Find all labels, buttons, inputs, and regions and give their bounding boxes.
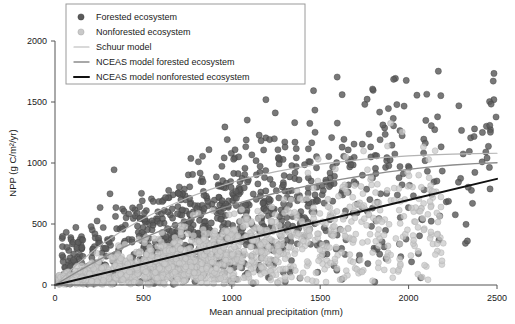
data-point <box>231 156 237 162</box>
data-point <box>487 122 493 128</box>
data-point <box>309 278 315 284</box>
data-point <box>256 132 262 138</box>
data-point <box>310 88 316 94</box>
data-point <box>156 236 162 242</box>
data-point <box>218 275 224 281</box>
data-point <box>223 257 229 263</box>
data-point <box>376 200 382 206</box>
data-point <box>138 190 144 196</box>
data-point <box>408 253 414 259</box>
data-point <box>417 208 423 214</box>
data-point <box>315 198 321 204</box>
data-point <box>418 184 424 190</box>
data-point <box>386 221 392 227</box>
data-point <box>367 231 373 237</box>
data-point <box>325 196 331 202</box>
data-point <box>361 202 367 208</box>
data-point <box>172 269 178 275</box>
y-axis-ticks: 0500100015002000 <box>27 36 55 290</box>
data-point <box>224 136 230 142</box>
data-point <box>471 133 477 139</box>
data-point <box>231 275 237 281</box>
data-point <box>411 237 417 243</box>
data-point <box>286 244 292 250</box>
data-point <box>206 147 212 153</box>
data-point <box>267 176 273 182</box>
data-point <box>391 185 397 191</box>
data-point <box>345 226 351 232</box>
data-point <box>158 244 164 250</box>
data-point <box>212 228 218 234</box>
data-point <box>201 231 207 237</box>
data-point <box>162 194 168 200</box>
data-point <box>222 124 228 130</box>
data-point <box>485 143 491 149</box>
x-axis-title: Mean annual precipitation (mm) <box>209 306 343 317</box>
data-point <box>276 248 282 254</box>
data-point <box>145 281 151 287</box>
data-point <box>351 237 357 243</box>
data-point <box>370 249 376 255</box>
data-point <box>257 242 263 248</box>
data-point <box>292 251 298 257</box>
data-point <box>120 277 126 283</box>
data-point <box>426 175 432 181</box>
legend: Forested ecosystemNonforested ecosystemS… <box>66 4 305 84</box>
data-point <box>434 231 440 237</box>
data-point <box>269 204 275 210</box>
data-point <box>126 211 132 217</box>
y-tick-label: 2000 <box>27 36 47 46</box>
data-point <box>129 205 135 211</box>
data-point <box>174 211 180 217</box>
scatter-clouds <box>56 68 500 287</box>
data-point <box>428 204 434 210</box>
data-point <box>80 253 86 259</box>
data-point <box>364 167 370 173</box>
data-point <box>296 177 302 183</box>
data-point <box>328 260 334 266</box>
data-point <box>309 140 315 146</box>
data-point <box>141 210 147 216</box>
data-point <box>185 231 191 237</box>
data-point <box>213 174 219 180</box>
data-point <box>385 105 391 111</box>
data-point <box>248 244 254 250</box>
data-point <box>268 277 274 283</box>
data-point <box>382 131 388 137</box>
data-point <box>113 205 119 211</box>
data-point <box>59 233 65 239</box>
data-point <box>317 247 323 253</box>
data-point <box>176 260 182 266</box>
data-point <box>281 196 287 202</box>
data-point <box>178 230 184 236</box>
data-point <box>139 198 145 204</box>
data-point <box>162 261 168 267</box>
data-point <box>440 240 446 246</box>
data-point <box>258 249 264 255</box>
data-point <box>350 259 356 265</box>
data-point <box>293 155 299 161</box>
data-point <box>188 155 194 161</box>
data-point <box>415 224 421 230</box>
data-point <box>403 77 409 83</box>
data-point <box>325 204 331 210</box>
data-point <box>414 92 420 98</box>
data-point <box>143 269 149 275</box>
data-point <box>258 138 264 144</box>
data-point <box>197 170 203 176</box>
data-point <box>213 265 219 271</box>
data-point <box>437 214 443 220</box>
data-point <box>187 184 193 190</box>
data-point <box>487 186 493 192</box>
data-point <box>231 244 237 250</box>
data-point <box>435 219 441 225</box>
data-point <box>198 275 204 281</box>
data-point <box>269 219 275 225</box>
data-point <box>292 139 298 145</box>
data-point <box>244 216 250 222</box>
data-point <box>404 227 410 233</box>
data-point <box>258 212 264 218</box>
data-point <box>316 258 322 264</box>
data-point <box>157 220 163 226</box>
legend-label-3: NCEAS model forested ecosystem <box>96 57 235 67</box>
